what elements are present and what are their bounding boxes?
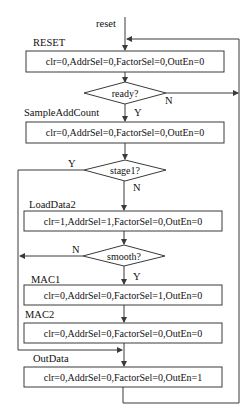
state-label-reset: RESET <box>33 37 66 48</box>
state-action-mac2: clr=0,AddrSel=0,FactorSel=0,OutEn=0 <box>44 328 202 339</box>
state-action-loaddata2: clr=1,AddrSel=1,FactorSel=0,OutEn=0 <box>44 216 202 227</box>
state-label-sampleaddcount: SampleAddCount <box>24 107 99 118</box>
state-label-loaddata2: LoadData2 <box>29 199 76 210</box>
state-label-mac1: MAC1 <box>31 274 60 285</box>
stage1-yes-label: Y <box>68 158 76 169</box>
smooth-yes-label: Y <box>133 271 141 282</box>
smooth-no-label: N <box>72 244 80 255</box>
state-action-mac1: clr=0,AddrSel=0,FactorSel=1,OutEn=0 <box>44 290 202 301</box>
state-action-sampleaddcount: clr=0,AddrSel=0,FactorSel=0,OutEn=0 <box>46 127 204 138</box>
ready-no-label: N <box>165 95 173 106</box>
state-action-outdata: clr=0,AddrSel=0,FactorSel=0,OutEn=1 <box>44 372 202 383</box>
state-label-mac2: MAC2 <box>25 309 54 320</box>
decision-text-stage1: stage1? <box>110 165 141 176</box>
ready-yes-label: Y <box>134 107 142 118</box>
decision-text-ready: ready? <box>112 88 139 99</box>
state-action-reset: clr=0,AddrSel=0,FactorSel=0,OutEn=0 <box>46 56 204 67</box>
stage1-no-label: N <box>133 182 141 193</box>
entry-label: reset <box>96 18 116 29</box>
flowchart: reset RESET clr=0,AddrSel=0,FactorSel=0,… <box>0 0 252 420</box>
state-label-outdata: OutData <box>33 353 69 364</box>
decision-text-smooth: smooth? <box>107 251 141 262</box>
edge-outdata-return <box>123 387 239 403</box>
